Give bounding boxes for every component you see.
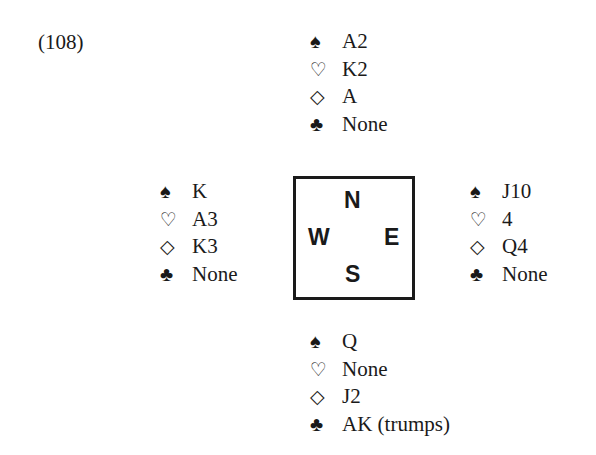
west-diamonds: ◇K3 <box>160 233 238 261</box>
heart-icon: ♡ <box>310 56 342 84</box>
spade-icon: ♠ <box>160 178 192 206</box>
compass-south: S <box>345 263 360 286</box>
diamond-icon: ◇ <box>310 83 342 111</box>
east-diamonds: ◇Q4 <box>470 233 548 261</box>
east-clubs: ♣None <box>470 261 548 289</box>
east-spades: ♠J10 <box>470 178 548 206</box>
heart-icon: ♡ <box>310 356 342 384</box>
south-diamonds: ◇J2 <box>310 383 450 411</box>
compass-north: N <box>344 189 361 212</box>
club-icon: ♣ <box>160 261 192 289</box>
east-hand: ♠J10 ♡4 ◇Q4 ♣None <box>470 178 548 288</box>
west-hearts: ♡A3 <box>160 206 238 234</box>
west-clubs: ♣None <box>160 261 238 289</box>
diamond-icon: ◇ <box>470 233 502 261</box>
south-clubs: ♣AK (trumps) <box>310 411 450 439</box>
problem-number: (108) <box>38 30 84 55</box>
club-icon: ♣ <box>310 411 342 439</box>
spade-icon: ♠ <box>470 178 502 206</box>
north-clubs: ♣None <box>310 111 388 139</box>
north-hand: ♠A2 ♡K2 ◇A ♣None <box>310 28 388 138</box>
compass-east: E <box>384 226 399 249</box>
compass-west: W <box>308 226 330 249</box>
north-spades: ♠A2 <box>310 28 388 56</box>
south-hearts: ♡None <box>310 356 450 384</box>
spade-icon: ♠ <box>310 28 342 56</box>
west-hand: ♠K ♡A3 ◇K3 ♣None <box>160 178 238 288</box>
club-icon: ♣ <box>310 111 342 139</box>
diamond-icon: ◇ <box>160 233 192 261</box>
west-spades: ♠K <box>160 178 238 206</box>
east-hearts: ♡4 <box>470 206 548 234</box>
south-hand: ♠Q ♡None ◇J2 ♣AK (trumps) <box>310 328 450 438</box>
heart-icon: ♡ <box>160 206 192 234</box>
heart-icon: ♡ <box>470 206 502 234</box>
club-icon: ♣ <box>470 261 502 289</box>
north-diamonds: ◇A <box>310 83 388 111</box>
diamond-icon: ◇ <box>310 383 342 411</box>
spade-icon: ♠ <box>310 328 342 356</box>
compass-box: N W E S <box>293 176 415 300</box>
south-spades: ♠Q <box>310 328 450 356</box>
north-hearts: ♡K2 <box>310 56 388 84</box>
